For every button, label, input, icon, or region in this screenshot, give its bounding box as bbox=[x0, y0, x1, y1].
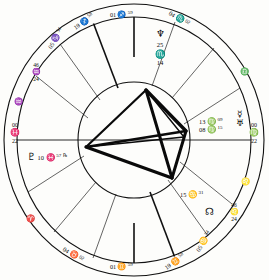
wheel-graphic bbox=[0, 0, 269, 280]
cusp-9-spoke bbox=[172, 48, 214, 98]
cusp-11-spoke bbox=[94, 24, 119, 89]
cusp-3-spoke bbox=[54, 182, 96, 232]
cusp-12-spoke bbox=[60, 44, 100, 100]
horoscope-chart: 00 ♓ 22 00 ♍ 22 01 ♐ 59 01 ♊ 59 19 ♐ 58 … bbox=[0, 0, 269, 280]
aspect-figure bbox=[86, 90, 186, 178]
cusp-4-spoke bbox=[93, 194, 116, 258]
cusp-8-spoke bbox=[184, 88, 240, 124]
cusp-2-spoke bbox=[28, 156, 84, 192]
cusp-7-spoke bbox=[180, 162, 232, 204]
aspect-line-left-lower bbox=[86, 147, 172, 178]
cusp-6-spoke bbox=[168, 180, 208, 236]
cusp-5-spoke bbox=[150, 192, 175, 257]
cusp-10-spoke bbox=[152, 22, 175, 86]
cusp-1-spoke bbox=[36, 76, 88, 118]
